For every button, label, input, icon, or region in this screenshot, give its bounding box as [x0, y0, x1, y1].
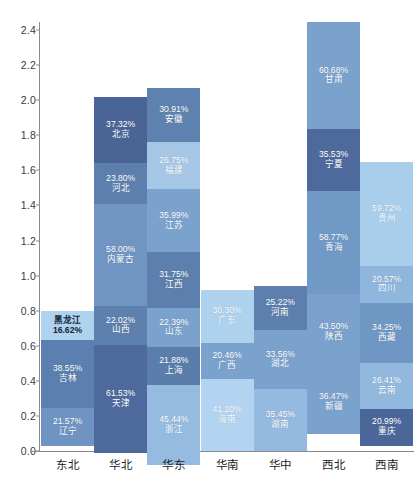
segment-region-name: 上海: [165, 366, 183, 376]
y-axis-tick-label: 1.0: [4, 270, 36, 282]
segment-region-name: 天津: [112, 399, 130, 409]
segment-region-name: 广西: [218, 361, 236, 371]
x-axis-label-华中: 华中: [254, 456, 307, 472]
bar-segment-江西[interactable]: 31.75%江西: [147, 252, 200, 308]
y-axis-tick-label: 2.4: [4, 24, 36, 36]
bar-segment-山东[interactable]: 22.39%山东: [147, 308, 200, 347]
segment-region-name: 山东: [165, 327, 183, 337]
segment-region-name: 贵州: [378, 214, 396, 224]
plot-area: 16.62%黑龙江38.55%吉林21.57%辽宁37.32%北京23.80%河…: [40, 22, 414, 452]
segment-region-name: 浙江: [165, 425, 183, 435]
x-axis-label-华北: 华北: [94, 456, 147, 472]
bar-segment-四川[interactable]: 20.57%四川: [360, 266, 413, 302]
bar-segment-湖南[interactable]: 35.45%湖南: [254, 389, 307, 451]
bar-segment-甘肃[interactable]: 60.68%甘肃: [307, 22, 360, 128]
segment-region-name: 河北: [112, 184, 130, 194]
segment-region-name: 辽宁: [59, 427, 77, 437]
y-axis-tick-label: 1.2: [4, 235, 36, 247]
bar-华北[interactable]: 37.32%北京23.80%河北58.00%内蒙古22.02%山西61.53%天…: [94, 97, 147, 451]
y-axis-tick-label: 0.6: [4, 340, 36, 352]
bar-东北[interactable]: 16.62%黑龙江38.55%吉林21.57%辽宁: [41, 311, 94, 451]
segment-region-name: 云南: [378, 386, 396, 396]
y-axis-tick-label: 0.8: [4, 305, 36, 317]
bar-segment-黑龙江[interactable]: 16.62%黑龙江: [41, 311, 94, 340]
segment-region-name: 吉林: [59, 374, 77, 384]
stacked-bar-chart: 0.00.20.40.60.81.01.21.41.61.82.02.22.4 …: [0, 0, 414, 480]
bar-segment-福建[interactable]: 26.75%福建: [147, 142, 200, 189]
segment-region-name: 广东: [218, 316, 236, 326]
segment-region-name: 新疆: [325, 402, 343, 412]
segment-region-name: 福建: [165, 166, 183, 176]
bar-segment-湖北[interactable]: 33.56%湖北: [254, 330, 307, 389]
x-axis-label-华南: 华南: [201, 456, 254, 472]
bar-segment-陕西[interactable]: 43.50%陕西: [307, 294, 360, 370]
segment-region-name: 湖南: [271, 420, 289, 430]
segment-region-name: 内蒙古: [107, 255, 134, 265]
segment-region-name: 安徽: [165, 115, 183, 125]
y-axis-tick-label: 2.0: [4, 94, 36, 106]
y-axis-tick-label: 1.6: [4, 164, 36, 176]
segment-region-name: 北京: [112, 130, 130, 140]
bar-segment-广东[interactable]: 30.30%广东: [201, 290, 254, 343]
bar-segment-山西[interactable]: 22.02%山西: [94, 306, 147, 345]
segment-region-name: 河南: [271, 308, 289, 318]
segment-region-name: 青海: [325, 243, 343, 253]
segment-region-name: 重庆: [378, 427, 396, 437]
segment-region-name: 宁夏: [325, 160, 343, 170]
bar-segment-西藏[interactable]: 34.25%西藏: [360, 303, 413, 363]
y-axis-tick-labels: 0.00.20.40.60.81.01.21.41.61.82.02.22.4: [0, 0, 36, 480]
y-axis-tick-label: 1.8: [4, 129, 36, 141]
segment-percentage: 16.62%: [53, 326, 82, 336]
bar-segment-浙江[interactable]: 45.44%浙江: [147, 385, 200, 465]
bar-segment-贵州[interactable]: 59.72%贵州: [360, 162, 413, 267]
bar-segment-上海[interactable]: 21.88%上海: [147, 347, 200, 385]
bar-segment-广西[interactable]: 20.46%广西: [201, 343, 254, 379]
segment-region-name: 江西: [165, 280, 183, 290]
bar-segment-青海[interactable]: 58.77%青海: [307, 191, 360, 294]
bar-segment-吉林[interactable]: 38.55%吉林: [41, 340, 94, 408]
segment-region-name: 海南: [218, 415, 236, 425]
bar-segment-新疆[interactable]: 36.47%新疆: [307, 370, 360, 434]
bar-西南[interactable]: 59.72%贵州20.57%四川34.25%西藏26.41%云南20.99%重庆: [360, 162, 413, 451]
bar-segment-宁夏[interactable]: 35.53%宁夏: [307, 129, 360, 191]
bar-华东[interactable]: 30.91%安徽26.75%福建35.99%江苏31.75%江西22.39%山东…: [147, 88, 200, 451]
bar-segment-安徽[interactable]: 30.91%安徽: [147, 88, 200, 142]
bar-segment-海南[interactable]: 41.20%海南: [201, 379, 254, 451]
segment-region-name: 西藏: [378, 333, 396, 343]
bar-segment-天津[interactable]: 61.53%天津: [94, 345, 147, 453]
segment-region-name: 湖北: [271, 359, 289, 369]
bar-segment-辽宁[interactable]: 21.57%辽宁: [41, 408, 94, 446]
segment-region-name: 甘肃: [325, 75, 343, 85]
x-axis-label-西北: 西北: [307, 456, 360, 472]
bar-segment-内蒙古[interactable]: 58.00%内蒙古: [94, 204, 147, 306]
y-axis-tick-label: 0.2: [4, 410, 36, 422]
bar-华中[interactable]: 25.22%河南33.56%湖北35.45%湖南: [254, 286, 307, 451]
segment-region-name: 陕西: [325, 332, 343, 342]
bar-segment-河北[interactable]: 23.80%河北: [94, 163, 147, 205]
y-axis-tick-label: 1.4: [4, 199, 36, 211]
x-axis-label-华东: 华东: [147, 456, 200, 472]
bar-segment-河南[interactable]: 25.22%河南: [254, 286, 307, 330]
segment-region-name: 山西: [112, 325, 130, 335]
x-axis-label-东北: 东北: [41, 456, 94, 472]
segment-region-name: 江苏: [165, 221, 183, 231]
bar-华南[interactable]: 30.30%广东20.46%广西41.20%海南: [201, 290, 254, 451]
bar-西北[interactable]: 60.68%甘肃35.53%宁夏58.77%青海43.50%陕西36.47%新疆: [307, 22, 360, 451]
bar-segment-重庆[interactable]: 20.99%重庆: [360, 409, 413, 446]
y-axis-tick-label: 0.4: [4, 375, 36, 387]
bar-segment-北京[interactable]: 37.32%北京: [94, 97, 147, 162]
bar-segment-江苏[interactable]: 35.99%江苏: [147, 189, 200, 252]
bar-segment-云南[interactable]: 26.41%云南: [360, 363, 413, 409]
x-axis-label-西南: 西南: [360, 456, 413, 472]
segment-region-name: 四川: [378, 284, 396, 294]
y-axis-tick-label: 2.2: [4, 59, 36, 71]
